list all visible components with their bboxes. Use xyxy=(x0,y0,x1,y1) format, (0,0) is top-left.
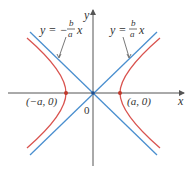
origin-label: 0 xyxy=(84,104,90,116)
right-vertex-dot xyxy=(118,91,122,95)
hyperbola-diagram: y x 0 (−a, 0) (a, 0) y = − b a x y = b a… xyxy=(0,0,193,174)
left-vertex-label: (−a, 0) xyxy=(26,95,58,108)
svg-text:y =: y = xyxy=(109,23,126,37)
svg-text:b: b xyxy=(131,18,136,28)
svg-text:a: a xyxy=(130,29,135,39)
left-asymptote-pointer xyxy=(59,37,66,57)
left-asymptote-equation: y = − b a x xyxy=(39,18,83,39)
left-vertex-dot xyxy=(64,91,68,95)
svg-text:b: b xyxy=(69,18,74,28)
x-axis-label: x xyxy=(177,94,184,108)
y-axis-label: y xyxy=(83,8,90,22)
svg-text:x: x xyxy=(76,23,83,37)
right-asymptote-pointer xyxy=(123,37,129,57)
svg-text:x: x xyxy=(138,23,145,37)
right-vertex-label: (a, 0) xyxy=(127,95,151,108)
svg-text:y = −: y = − xyxy=(39,23,68,37)
origin-dot xyxy=(91,91,95,95)
svg-text:a: a xyxy=(68,29,73,39)
right-asymptote-equation: y = b a x xyxy=(109,18,145,39)
